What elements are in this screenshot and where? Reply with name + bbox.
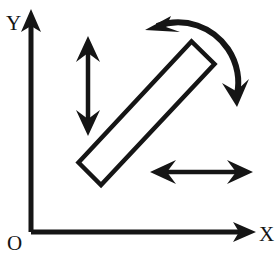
origin-label: O bbox=[7, 231, 22, 255]
figure-root: Y X O bbox=[0, 0, 275, 258]
rod bbox=[79, 42, 215, 186]
y-axis-label: Y bbox=[6, 11, 21, 35]
horizontal-double-arrow bbox=[150, 160, 253, 184]
vertical-double-arrow bbox=[76, 36, 100, 136]
rod-motion-diagram: Y X O bbox=[0, 0, 275, 258]
rod-outline bbox=[79, 42, 215, 186]
x-axis-label: X bbox=[259, 222, 274, 246]
